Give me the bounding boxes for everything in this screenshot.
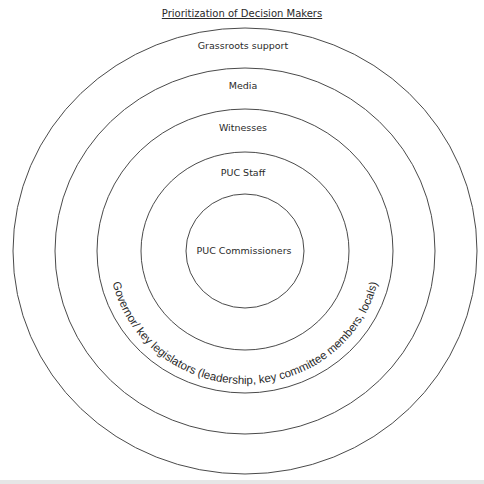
label-grassroots-support: Grassroots support (198, 40, 289, 51)
label-witnesses: Witnesses (219, 122, 267, 133)
concentric-priority-diagram: Prioritization of Decision Makers Grassr… (0, 0, 484, 484)
label-puc-commissioners: PUC Commissioners (197, 245, 292, 256)
bottom-border (0, 480, 484, 484)
diagram-title: Prioritization of Decision Makers (162, 8, 322, 19)
label-governor-legislators: Governor/ key legislators (leadership, k… (111, 280, 380, 386)
label-puc-staff: PUC Staff (221, 167, 266, 178)
label-media: Media (229, 80, 258, 91)
arc-text: Governor/ key legislators (leadership, k… (111, 280, 380, 386)
